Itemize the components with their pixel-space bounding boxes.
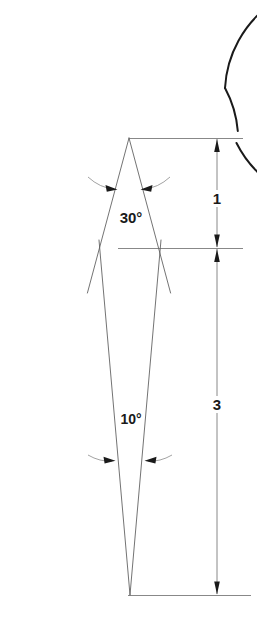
dimension-label-1: 1 bbox=[213, 190, 221, 207]
technical-drawing-figure: 30° 10° 1 3 bbox=[0, 0, 257, 627]
angle-arrowhead-10-right bbox=[145, 457, 157, 464]
dimension-drawing-canvas: 30° 10° 1 3 bbox=[0, 0, 257, 627]
circle-outline bbox=[225, 0, 257, 204]
dimension-arrowhead-3-bottom bbox=[214, 582, 220, 595]
angle-label-10: 10° bbox=[120, 411, 141, 427]
dimension-arrowhead-1-bottom bbox=[214, 235, 220, 248]
dimension-arrowhead-1-top bbox=[214, 139, 220, 152]
dimension-arrowhead-3-top bbox=[214, 249, 220, 262]
angle-label-30: 30° bbox=[120, 209, 143, 226]
dimension-label-3: 3 bbox=[213, 396, 221, 413]
circle-outline-tail bbox=[225, 88, 238, 131]
angle-arrowhead-10-left bbox=[104, 457, 116, 464]
